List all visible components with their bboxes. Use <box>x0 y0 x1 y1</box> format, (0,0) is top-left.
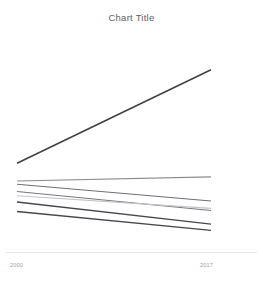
chart-container: Chart Title 2000 2017 <box>0 0 263 286</box>
chart-series-line <box>17 192 211 211</box>
series-group <box>17 70 211 231</box>
x-axis-tick-end: 2017 <box>200 262 213 268</box>
line-chart-plot <box>0 0 263 286</box>
chart-series-line <box>17 70 211 163</box>
chart-series-line <box>17 196 211 209</box>
x-axis-tick-start: 2000 <box>10 262 23 268</box>
chart-series-line <box>17 177 211 181</box>
chart-series-line <box>17 184 211 201</box>
